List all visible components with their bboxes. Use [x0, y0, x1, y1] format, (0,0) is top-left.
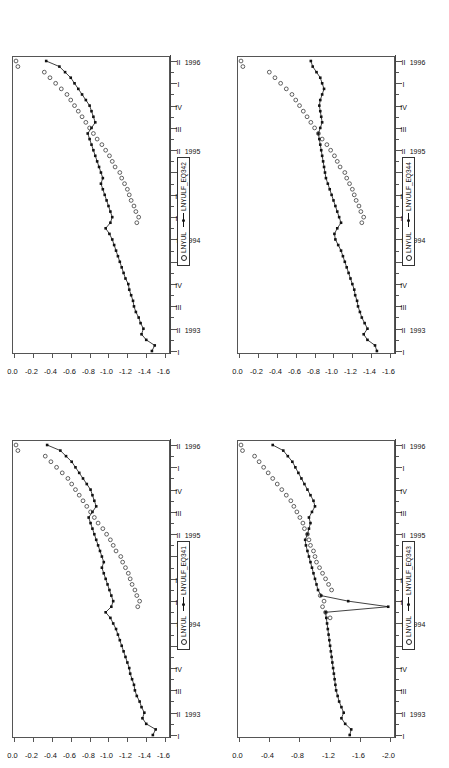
y-tick — [277, 354, 278, 358]
y-tick-label: 0.0 — [227, 751, 249, 760]
x-minor-tick — [171, 479, 174, 480]
x-year-label: 1996 — [408, 443, 428, 450]
x-tick-label: I — [174, 349, 184, 356]
plot-area — [12, 56, 170, 354]
x-minor-tick — [171, 139, 174, 140]
y-tick-label: -2.0 — [378, 751, 400, 760]
legend-entry-fitted: LNYULF_EQ343 — [405, 546, 412, 611]
x-tick-label: I — [174, 733, 184, 740]
y-tick — [90, 354, 91, 358]
legend-label-fitted: LNYULF_EQ342 — [180, 162, 187, 211]
x-minor-tick — [171, 612, 174, 613]
x-tick-label: III — [174, 509, 184, 516]
y-tick — [127, 354, 128, 358]
legend-label-fitted: LNYULF_EQ343 — [405, 546, 412, 595]
series-canvas — [238, 441, 394, 737]
legend-entry-observed: LNYUL — [405, 232, 412, 261]
x-year-label: 1996 — [408, 59, 428, 66]
y-tick — [127, 738, 128, 742]
x-minor-tick — [171, 228, 174, 229]
legend-label-fitted: LNYULF_EQ344 — [405, 162, 412, 211]
legend-label-observed: LNYUL — [180, 232, 187, 253]
x-minor-tick — [171, 702, 174, 703]
x-minor-tick — [396, 206, 399, 207]
x-minor-tick — [171, 456, 174, 457]
x-minor-tick — [171, 545, 174, 546]
legend-label-observed: LNYUL — [405, 232, 412, 253]
x-tick-label: I — [399, 733, 409, 740]
x-axis-line — [395, 439, 396, 738]
chart-legend: LNYUL LNYULF_EQ341 — [177, 541, 190, 650]
y-tick — [371, 354, 372, 358]
y-tick — [296, 354, 297, 358]
y-tick — [71, 354, 72, 358]
x-minor-tick — [396, 228, 399, 229]
figure-sheet: IIIIIIIVIIIIIIIVIIIIIIIVIII 199319941995… — [0, 0, 449, 768]
line-marker-icon — [408, 213, 409, 227]
x-minor-tick — [396, 340, 399, 341]
x-tick-label: IV — [174, 666, 184, 673]
x-tick-label: IV — [399, 487, 409, 494]
x-year-label: 1993 — [408, 710, 428, 717]
legend-entry-observed: LNYUL — [405, 616, 412, 645]
x-minor-tick — [171, 72, 174, 73]
legend-entry-fitted: LNYULF_EQ344 — [405, 162, 412, 227]
x-minor-tick — [396, 161, 399, 162]
x-minor-tick — [171, 95, 174, 96]
x-minor-tick — [396, 184, 399, 185]
x-minor-tick — [396, 545, 399, 546]
x-minor-tick — [171, 568, 174, 569]
y-tick — [352, 354, 353, 358]
x-year-label: 1995 — [408, 532, 428, 539]
y-tick — [390, 354, 391, 358]
line-marker-icon — [183, 213, 184, 227]
x-axis-line — [170, 55, 171, 354]
x-tick-label: IV — [174, 103, 184, 110]
x-minor-tick — [171, 679, 174, 680]
chart-panel-top-left: IIIIIIIVIIIIIIIVIIIIIIIVIII 199319941995… — [0, 0, 224, 384]
y-tick — [165, 354, 166, 358]
series-canvas — [238, 57, 394, 353]
y-tick — [269, 738, 270, 742]
x-tick-label: I — [174, 81, 184, 88]
y-tick-label: -1.6 — [378, 367, 400, 376]
x-year-label: 1993 — [183, 326, 203, 333]
legend-label-observed: LNYUL — [180, 616, 187, 637]
x-minor-tick — [396, 139, 399, 140]
y-tick — [146, 738, 147, 742]
y-tick — [108, 354, 109, 358]
x-minor-tick — [396, 117, 399, 118]
x-axis-line — [395, 55, 396, 354]
y-tick-label: -0.4 — [257, 751, 279, 760]
x-year-label: 1995 — [183, 532, 203, 539]
x-minor-tick — [396, 318, 399, 319]
x-minor-tick — [171, 590, 174, 591]
x-tick-label: IV — [399, 666, 409, 673]
y-tick — [299, 738, 300, 742]
x-minor-tick — [396, 273, 399, 274]
y-tick — [14, 738, 15, 742]
x-year-label: 1995 — [408, 148, 428, 155]
plot-area — [12, 440, 170, 738]
x-tick-label: IV — [174, 487, 184, 494]
x-tick-label: I — [399, 349, 409, 356]
y-tick — [333, 354, 334, 358]
open-circle-icon — [406, 639, 412, 645]
x-axis-line — [170, 439, 171, 738]
x-tick-label: I — [174, 465, 184, 472]
chart-bottom-right: IIIIIIIVIIIIIIIVIIIIIIIVIII 199319941995… — [225, 428, 421, 768]
x-minor-tick — [171, 184, 174, 185]
x-minor-tick — [396, 456, 399, 457]
x-minor-tick — [396, 479, 399, 480]
x-minor-tick — [396, 590, 399, 591]
x-tick-label: III — [399, 509, 409, 516]
open-circle-icon — [181, 255, 187, 261]
y-tick — [330, 738, 331, 742]
y-tick — [90, 738, 91, 742]
x-tick-label: I — [399, 465, 409, 472]
series-canvas — [13, 57, 169, 353]
x-minor-tick — [171, 724, 174, 725]
x-year-label: 1996 — [183, 443, 203, 450]
open-circle-icon — [181, 639, 187, 645]
y-tick — [52, 738, 53, 742]
